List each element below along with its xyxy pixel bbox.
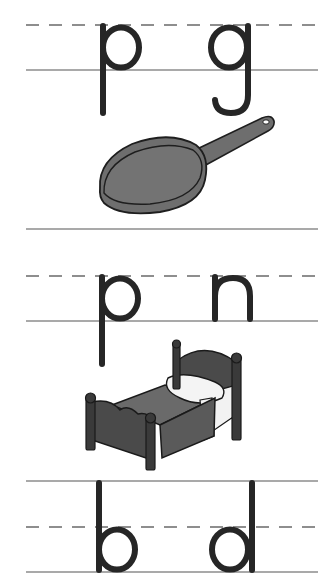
worksheet-canvas: [0, 0, 331, 588]
bed-icon: [86, 340, 242, 470]
row2-letter-n: [215, 277, 250, 319]
letter-worksheet: p g p n b d frying pan bed: [0, 0, 331, 588]
row1-guidelines: [26, 25, 318, 70]
row3-guidelines: [26, 481, 318, 572]
frying-pan-icon: [100, 117, 274, 214]
row2-guidelines: [26, 229, 318, 321]
